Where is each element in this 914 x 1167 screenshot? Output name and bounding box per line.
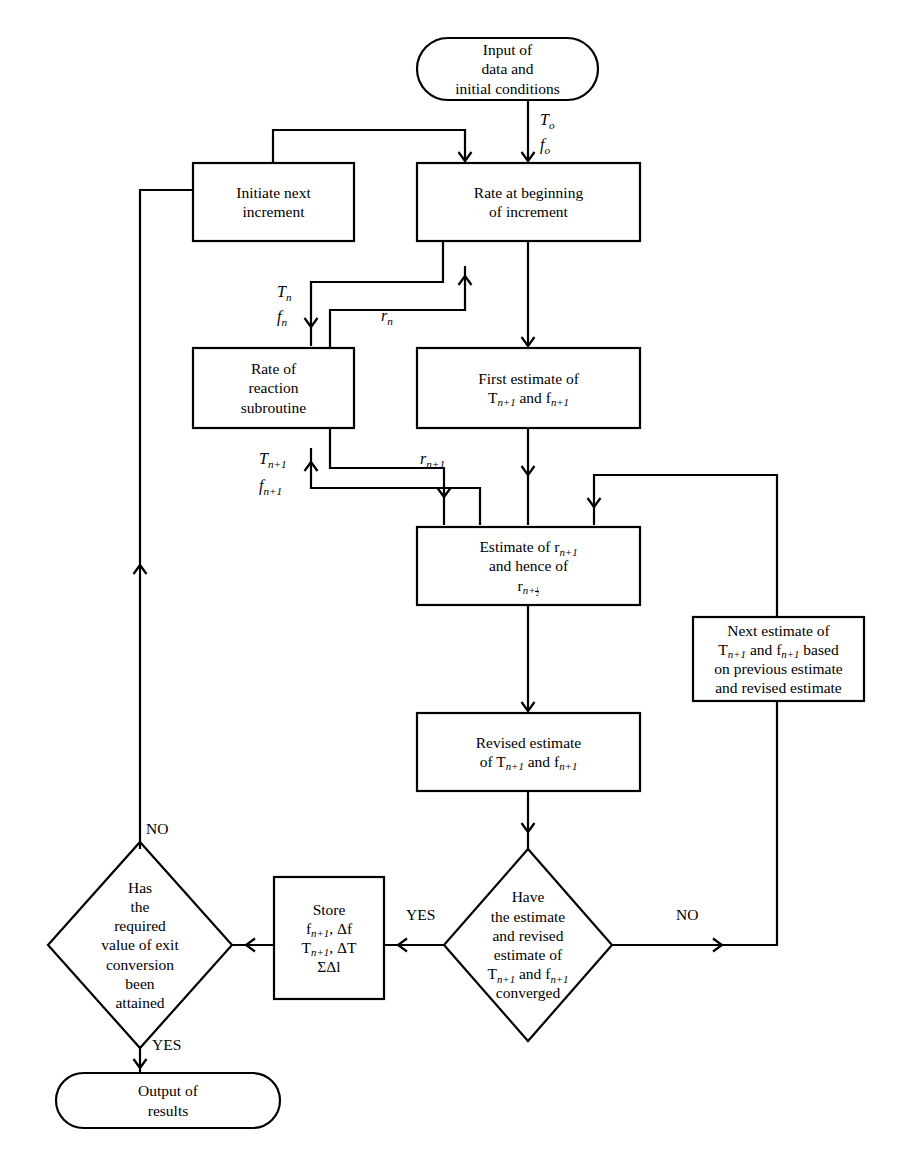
- edge-subroutine-rn-to-rate-begin: [330, 266, 465, 348]
- flowchart-diagram: Input ofdata andinitial conditionsInitia…: [0, 0, 914, 1167]
- first-estimate-process: [417, 348, 640, 428]
- rate-of-reaction-subroutine-process: [193, 348, 354, 428]
- flowchart-canvas: [0, 0, 914, 1167]
- edge-return-to-initiate: [140, 190, 193, 849]
- initiate-next-increment-process: [193, 163, 354, 241]
- store-process: [274, 877, 384, 999]
- rate-at-beginning-process: [417, 163, 640, 241]
- edge-subroutine-out-to-estimate-r: [330, 428, 444, 525]
- edge-feedback-initiate-to-rate-begin: [273, 130, 465, 163]
- output-terminal: [56, 1073, 280, 1128]
- input-terminal: [417, 38, 598, 100]
- edge-estimate-feedback-to-subroutine: [311, 448, 480, 525]
- exit-conversion-decision: [48, 842, 232, 1048]
- revised-estimate-process: [417, 713, 640, 791]
- next-estimate-process: [693, 617, 864, 701]
- converged-decision: [444, 849, 612, 1041]
- estimate-of-r-process: [417, 527, 640, 605]
